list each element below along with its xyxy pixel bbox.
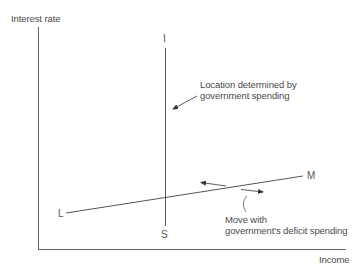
lm-curve-right-label: M <box>307 170 315 181</box>
lm-movement-note: Move with government's deficit spending <box>225 214 348 236</box>
lm-curve <box>66 176 303 213</box>
x-axis-label: Income <box>319 254 350 265</box>
is-location-note: Location determined by government spendi… <box>200 79 297 101</box>
is-pointer-arrow <box>173 96 197 109</box>
lm-note-leader <box>243 196 247 212</box>
y-axis-label: Interest rate <box>11 13 60 24</box>
is-curve-bottom-label: S <box>161 229 168 240</box>
is-lm-diagram: Interest rate Income I S L M Location de… <box>0 0 361 271</box>
right-shift-arrow <box>241 190 263 193</box>
left-shift-arrow <box>201 183 226 187</box>
lm-curve-left-label: L <box>58 208 63 219</box>
is-curve-top-label: I <box>163 33 166 44</box>
